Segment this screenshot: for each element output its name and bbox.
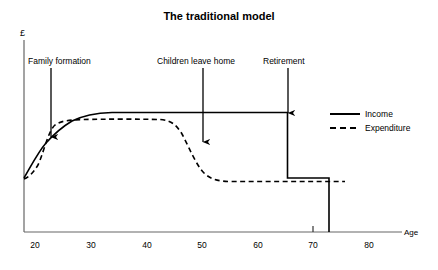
expenditure-curve: [24, 119, 345, 181]
chart-container: The traditional model £ Age Family forma…: [0, 0, 438, 270]
income-curve: [24, 113, 329, 233]
chart-plot-area: [0, 0, 438, 270]
